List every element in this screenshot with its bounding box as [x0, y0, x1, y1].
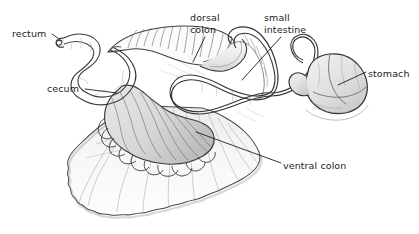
label-ventral-colon: ventral colon [283, 160, 346, 171]
figure-canvas: rectum cecum dorsal colon small intestin… [0, 0, 419, 234]
label-dorsal-colon: dorsal colon [190, 12, 220, 35]
label-small-intestine: small intestine [264, 12, 306, 35]
label-stomach: stomach [368, 68, 410, 79]
anatomy-illustration [0, 0, 419, 234]
label-cecum: cecum [47, 83, 79, 94]
label-rectum: rectum [12, 28, 46, 39]
